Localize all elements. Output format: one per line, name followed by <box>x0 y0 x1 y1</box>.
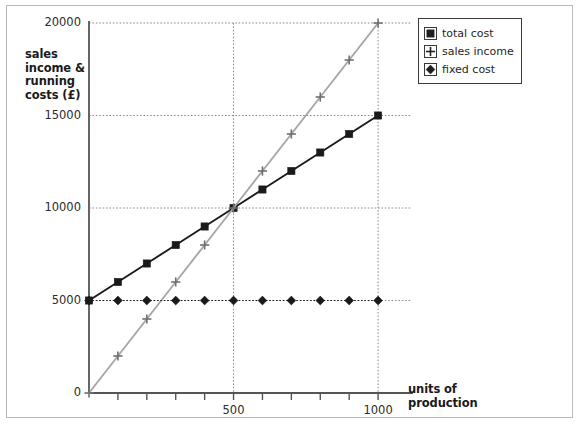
data-point <box>374 296 383 305</box>
y-axis-title: salesincome &runningcosts (£) <box>25 48 95 102</box>
series-fixed-cost <box>85 296 383 305</box>
data-point <box>316 296 325 305</box>
y-tick-label: 0 <box>21 385 81 399</box>
data-point <box>114 296 123 305</box>
plus-marker-icon <box>424 45 437 58</box>
x-tick-label: 500 <box>204 403 264 417</box>
data-point <box>374 112 381 119</box>
y-tick-label: 5000 <box>21 293 81 307</box>
data-point <box>229 296 238 305</box>
y-tick-label: 20000 <box>21 15 81 29</box>
data-point <box>142 296 151 305</box>
data-point <box>345 296 354 305</box>
legend-item-label: fixed cost <box>442 63 495 76</box>
axis-lines <box>89 21 413 393</box>
y-axis-title-line: sales <box>25 48 95 62</box>
data-point <box>171 296 180 305</box>
data-point <box>143 260 150 267</box>
y-axis-title-line: costs (£) <box>25 89 95 103</box>
x-tick-label: 1000 <box>348 403 408 417</box>
gridlines <box>89 23 411 393</box>
legend-item[interactable]: fixed cost <box>424 60 515 78</box>
data-point <box>317 149 324 156</box>
x-axis-title-line: production <box>408 397 518 411</box>
legend-item[interactable]: total cost <box>424 24 515 42</box>
data-point <box>288 167 295 174</box>
data-point <box>258 296 267 305</box>
data-point <box>346 130 353 137</box>
legend-item-label: total cost <box>442 27 493 40</box>
figure-frame: salesincome &runningcosts (£) units ofpr… <box>6 5 573 418</box>
y-tick-label: 15000 <box>21 108 81 122</box>
data-point <box>114 278 121 285</box>
x-axis-ticks <box>118 393 378 400</box>
data-point <box>259 186 266 193</box>
chart-figure: salesincome &runningcosts (£) units ofpr… <box>0 0 581 428</box>
y-axis-title-line: income & <box>25 62 95 76</box>
x-axis-title: units ofproduction <box>408 383 518 410</box>
chart-legend: total costsales incomefixed cost <box>418 18 522 84</box>
x-axis-title-line: units of <box>408 383 518 397</box>
diamond-marker-icon <box>424 63 437 76</box>
legend-item[interactable]: sales income <box>424 42 515 60</box>
data-point <box>200 296 209 305</box>
data-point <box>201 223 208 230</box>
y-tick-label: 10000 <box>21 200 81 214</box>
y-axis-title-line: running <box>25 75 95 89</box>
data-point <box>172 241 179 248</box>
legend-item-label: sales income <box>442 45 514 58</box>
square-marker-icon <box>424 27 437 40</box>
data-point <box>287 296 296 305</box>
